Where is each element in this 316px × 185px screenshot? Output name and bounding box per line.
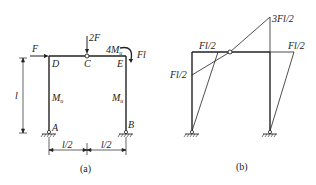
label-d: D — [51, 58, 60, 69]
label-force-f: F — [31, 43, 39, 54]
label-half-right: l/2 — [101, 139, 112, 150]
label-moment-fl: Fl — [136, 49, 146, 60]
label-force-2f: 2F — [89, 32, 101, 43]
fixed-support-right-icon — [262, 130, 277, 137]
force-f-arrow-icon — [30, 54, 49, 58]
label-column-fl-2: Fl/2 — [169, 69, 187, 80]
fixed-support-left-icon — [184, 130, 199, 137]
caption-b: (b) — [236, 161, 248, 173]
dimension-half — [49, 137, 126, 155]
label-3fl-2: 3Fl/2 — [271, 13, 294, 24]
label-beam-left-fl-2: Fl/2 — [198, 40, 216, 51]
dimension-l — [19, 58, 27, 133]
label-mu-left: Mu — [51, 92, 63, 104]
label-e: E — [116, 58, 123, 69]
frame-b — [184, 17, 294, 137]
moment-diagram — [192, 17, 294, 131]
pin-support-b-icon — [118, 130, 133, 137]
label-4mu: 4Mu — [106, 44, 122, 56]
caption-a: (a) — [80, 163, 91, 175]
label-l: l — [15, 90, 18, 101]
frame-diagrams: F 2F D C E 4Mu Fl l Mu Mu A B l/2 l/2 (a… — [0, 0, 316, 185]
label-half-left: l/2 — [62, 139, 73, 150]
hinge-icon — [228, 50, 232, 54]
label-b: B — [128, 119, 134, 130]
label-mu-right: Mu — [111, 92, 123, 104]
label-a: A — [51, 122, 59, 133]
label-c: C — [84, 58, 91, 69]
label-beam-right-fl-2: Fl/2 — [287, 40, 305, 51]
frame-b-labels: 3Fl/2 Fl/2 Fl/2 Fl/2 (b) — [169, 13, 305, 173]
